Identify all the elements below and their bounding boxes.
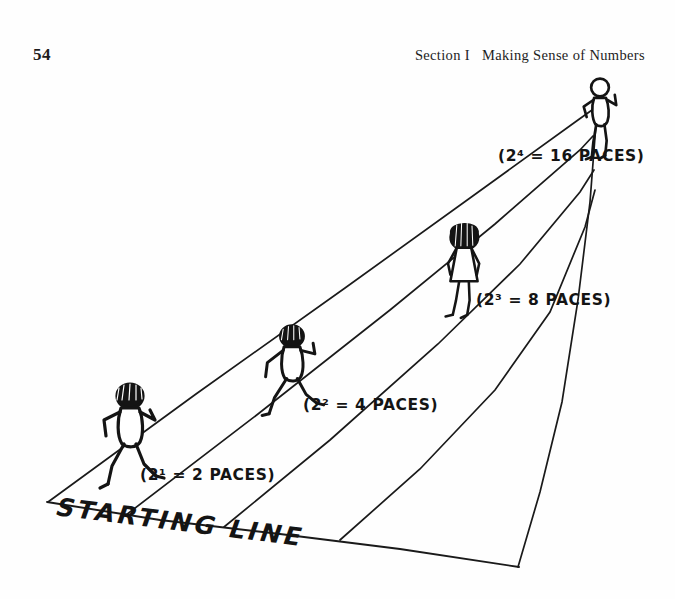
- textbook-page: 54 Section I Making Sense of Numbers STA…: [0, 0, 675, 599]
- runner-2-right-arm: [301, 343, 315, 354]
- perspective-track-illustration: STARTING LINE: [0, 72, 675, 599]
- runner-3-label: (2³ = 8 PACES): [476, 291, 611, 309]
- runner-1-torso: [118, 408, 142, 447]
- page-number: 54: [33, 45, 51, 65]
- illustration-container: STARTING LINE: [0, 72, 675, 599]
- starting-line-label: STARTING LINE: [52, 493, 309, 552]
- starting-line-label-group: STARTING LINE: [52, 493, 309, 552]
- lane-line-3: [224, 170, 594, 527]
- runner-4-label-group: (2⁴ = 16 PACES): [498, 147, 645, 165]
- runner-2-left-foot: [262, 414, 269, 416]
- runner-1-left-foot: [100, 484, 108, 488]
- runner-2-label: (2² = 4 PACES): [303, 396, 438, 414]
- runner-2-left-leg: [269, 379, 287, 414]
- runner-1-left-leg: [108, 444, 124, 484]
- runner-3-label-group: (2³ = 8 PACES): [476, 291, 611, 309]
- runner-2-label-group: (2² = 4 PACES): [303, 396, 438, 414]
- runner-4-head: [591, 79, 609, 97]
- runner-4-label: (2⁴ = 16 PACES): [498, 147, 645, 165]
- running-header: 54 Section I Making Sense of Numbers: [0, 45, 675, 71]
- running-head-title: Section I Making Sense of Numbers: [415, 47, 645, 64]
- lane-lines-group: [48, 110, 596, 567]
- runner-3: [446, 224, 480, 318]
- lane-line-2: [126, 136, 593, 515]
- runner-3-right-leg: [467, 281, 469, 315]
- lane-edge-right-line: [518, 124, 596, 567]
- runner-4-torso: [592, 98, 608, 126]
- runner-1-label-group: (2¹ = 2 PACES): [140, 466, 275, 484]
- runner-3-left-leg: [453, 281, 459, 315]
- runner-1-label: (2¹ = 2 PACES): [140, 466, 275, 484]
- runner-2-torso: [282, 347, 304, 381]
- runner-3-left-foot: [446, 315, 453, 317]
